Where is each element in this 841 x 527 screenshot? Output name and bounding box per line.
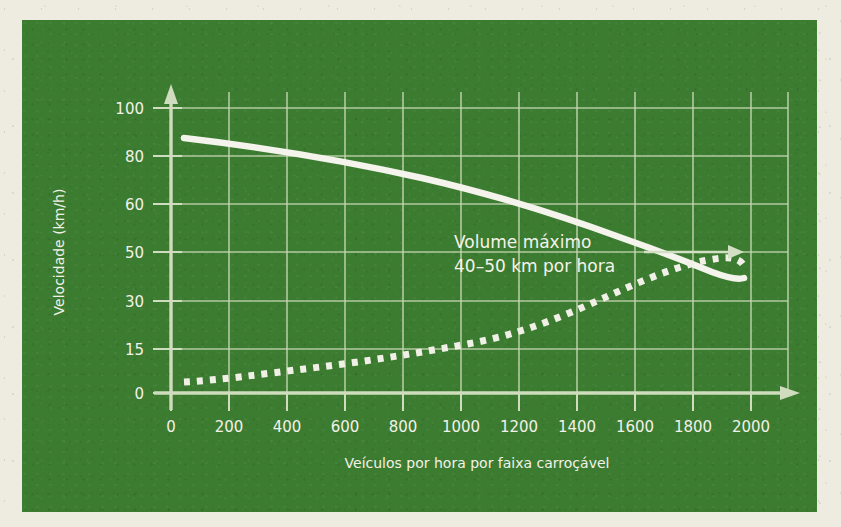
x-tick-label-1000: 1000 bbox=[442, 418, 480, 436]
y-tick-label-60: 60 bbox=[125, 196, 144, 214]
x-tick-label-1800: 1800 bbox=[674, 418, 712, 436]
x-tick-label-0: 0 bbox=[166, 418, 176, 436]
y-axis-arrow-icon bbox=[164, 84, 178, 104]
x-axis-title: Veículos por hora por faixa carroçável bbox=[345, 455, 610, 471]
y-tick-marks bbox=[153, 108, 182, 393]
grid-horizontal bbox=[171, 108, 788, 349]
x-tick-label-400: 400 bbox=[273, 418, 302, 436]
chart-panel: 100 80 60 50 30 15 0 0 200 400 600 800 1… bbox=[22, 20, 817, 512]
x-tick-label-200: 200 bbox=[215, 418, 244, 436]
x-tick-label-800: 800 bbox=[389, 418, 418, 436]
x-tick-label-1200: 1200 bbox=[500, 418, 538, 436]
annotation-line-1: Volume máximo bbox=[454, 232, 591, 252]
chart-page: 100 80 60 50 30 15 0 0 200 400 600 800 1… bbox=[0, 0, 841, 527]
annotation-arrow-head-icon bbox=[728, 245, 744, 259]
y-tick-labels: 100 80 60 50 30 15 0 bbox=[115, 100, 144, 403]
axis-x bbox=[154, 386, 800, 400]
x-tick-label-1600: 1600 bbox=[616, 418, 654, 436]
y-tick-label-0: 0 bbox=[134, 385, 144, 403]
y-tick-label-15: 15 bbox=[125, 341, 144, 359]
axis-y bbox=[164, 84, 178, 410]
x-tick-labels: 0 200 400 600 800 1000 1200 1400 1600 18… bbox=[166, 418, 770, 436]
series-congested-curve bbox=[184, 258, 744, 382]
x-tick-label-1400: 1400 bbox=[558, 418, 596, 436]
y-tick-label-100: 100 bbox=[115, 100, 144, 118]
annotation-line-2: 40–50 km por hora bbox=[454, 256, 615, 276]
y-tick-label-30: 30 bbox=[125, 293, 144, 311]
x-tick-label-600: 600 bbox=[331, 418, 360, 436]
chart-plot: 100 80 60 50 30 15 0 0 200 400 600 800 1… bbox=[22, 20, 817, 512]
x-tick-label-2000: 2000 bbox=[732, 418, 770, 436]
x-tick-marks bbox=[171, 393, 751, 411]
y-tick-label-80: 80 bbox=[125, 148, 144, 166]
y-axis-title: Velocidade (km/h) bbox=[51, 189, 67, 316]
y-tick-label-50: 50 bbox=[125, 244, 144, 262]
x-axis-arrow-icon bbox=[780, 386, 800, 400]
